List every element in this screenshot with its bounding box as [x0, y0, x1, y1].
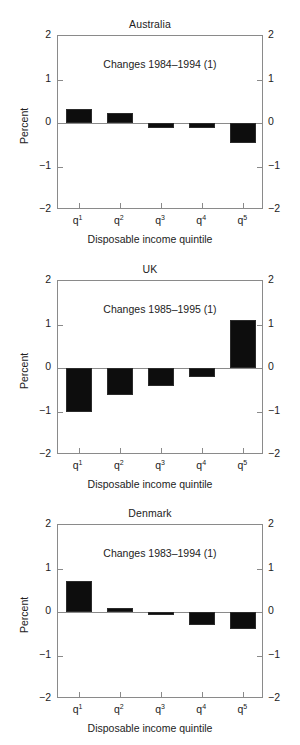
y-tick-label-right: 2 [268, 28, 294, 40]
y-tick-label-left: 1 [25, 72, 51, 84]
x-tick [161, 692, 162, 697]
x-tick-label-q4: q4 [186, 459, 216, 471]
y-tick-right [257, 656, 262, 657]
y-tick-label-right: 1 [268, 317, 294, 329]
y-tick-label-left: −1 [25, 159, 51, 171]
x-tick-label-q2: q2 [104, 703, 134, 715]
bar-q4 [189, 612, 215, 625]
x-axis-title: Disposable income quintile [0, 478, 300, 490]
x-tick [79, 203, 80, 208]
x-tick-label-q5: q5 [227, 459, 257, 471]
y-axis-title: Percent [18, 108, 30, 144]
y-tick-right [257, 569, 262, 570]
bar-q5 [230, 612, 256, 629]
x-tick [202, 692, 203, 697]
y-tick-label-left: 1 [25, 317, 51, 329]
y-tick-label-left: −2 [25, 691, 51, 703]
chart-panel-denmark: DenmarkChanges 1983–1994 (1)221100−1−1−2… [0, 507, 300, 745]
y-tick-label-left: −2 [25, 202, 51, 214]
x-tick-label-q5: q5 [227, 703, 257, 715]
y-tick-right [257, 612, 262, 613]
y-tick-label-right: 2 [268, 517, 294, 529]
x-tick-label-q2: q2 [104, 214, 134, 226]
y-tick-label-right: 0 [268, 604, 294, 616]
y-tick-label-right: −1 [268, 404, 294, 416]
x-tick-label-q3: q3 [145, 214, 175, 226]
y-tick-label-right: −2 [268, 691, 294, 703]
plot-area: Changes 1985–1995 (1) [57, 280, 263, 454]
x-tick [243, 448, 244, 453]
y-tick-left [58, 123, 63, 124]
x-tick-label-q4: q4 [186, 214, 216, 226]
y-tick-label-right: 1 [268, 72, 294, 84]
y-tick-label-left: −1 [25, 648, 51, 660]
x-axis-title: Disposable income quintile [0, 722, 300, 734]
y-tick-label-right: −1 [268, 159, 294, 171]
bar-q4 [189, 368, 215, 377]
plot-area: Changes 1983–1994 (1) [57, 524, 263, 698]
y-tick-left [58, 612, 63, 613]
x-tick [161, 448, 162, 453]
bar-q1 [66, 581, 92, 612]
y-tick-label-left: 2 [25, 28, 51, 40]
x-tick [120, 692, 121, 697]
y-tick-label-left: 1 [25, 561, 51, 573]
bar-q1 [66, 368, 92, 412]
x-tick-label-q3: q3 [145, 703, 175, 715]
x-axis-title: Disposable income quintile [0, 233, 300, 245]
y-tick-left [58, 656, 63, 657]
x-tick [243, 203, 244, 208]
bar-q2 [107, 608, 133, 612]
y-tick-left [58, 325, 63, 326]
y-tick-right [257, 80, 262, 81]
y-tick-right [257, 325, 262, 326]
x-tick-label-q1: q1 [63, 214, 93, 226]
bar-q3 [148, 368, 174, 386]
bar-q3 [148, 123, 174, 128]
y-tick-label-right: 2 [268, 273, 294, 285]
x-tick [202, 203, 203, 208]
y-tick-label-left: −1 [25, 404, 51, 416]
x-tick-label-q4: q4 [186, 703, 216, 715]
y-tick-label-left: −2 [25, 447, 51, 459]
y-tick-left [58, 80, 63, 81]
bar-q5 [230, 123, 256, 143]
y-tick-label-left: 2 [25, 517, 51, 529]
y-tick-left [58, 368, 63, 369]
y-tick-label-right: −1 [268, 648, 294, 660]
chart-panel-uk: UKChanges 1985–1995 (1)221100−1−1−2−2Per… [0, 263, 300, 502]
y-axis-title: Percent [18, 353, 30, 389]
y-tick-right [257, 123, 262, 124]
bar-q3 [148, 612, 174, 615]
y-axis-title: Percent [18, 597, 30, 633]
bar-q2 [107, 113, 133, 123]
x-tick [120, 203, 121, 208]
x-tick [120, 448, 121, 453]
chart-annotation: Changes 1985–1995 (1) [58, 303, 262, 315]
x-tick-label-q1: q1 [63, 703, 93, 715]
y-tick-label-left: 2 [25, 273, 51, 285]
x-tick-label-q2: q2 [104, 459, 134, 471]
y-tick-label-right: 1 [268, 561, 294, 573]
y-tick-left [58, 412, 63, 413]
chart-annotation: Changes 1984–1994 (1) [58, 58, 262, 70]
x-tick-label-q5: q5 [227, 214, 257, 226]
chart-annotation: Changes 1983–1994 (1) [58, 547, 262, 559]
x-tick-label-q1: q1 [63, 459, 93, 471]
y-tick-label-right: 0 [268, 360, 294, 372]
plot-area: Changes 1984–1994 (1) [57, 35, 263, 209]
x-tick [79, 692, 80, 697]
x-tick [79, 448, 80, 453]
bar-q1 [66, 109, 92, 123]
bar-q2 [107, 368, 133, 395]
y-tick-left [58, 167, 63, 168]
y-tick-label-right: 0 [268, 115, 294, 127]
x-tick [243, 692, 244, 697]
x-tick [202, 448, 203, 453]
bar-q5 [230, 320, 256, 368]
y-tick-label-right: −2 [268, 202, 294, 214]
x-tick-label-q3: q3 [145, 459, 175, 471]
y-tick-label-right: −2 [268, 447, 294, 459]
y-tick-right [257, 167, 262, 168]
bar-q4 [189, 123, 215, 128]
